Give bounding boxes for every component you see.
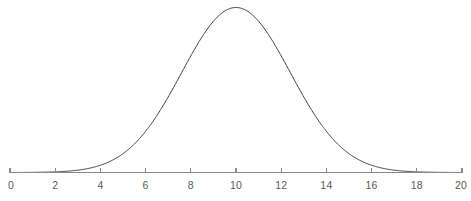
chart-canvas: 02468101214161820 <box>0 0 471 201</box>
x-tick-label-0: 0 <box>8 179 14 191</box>
x-tick-label-4: 4 <box>97 179 103 191</box>
x-tick-label-10: 10 <box>230 179 242 191</box>
x-tick-label-12: 12 <box>275 179 287 191</box>
x-tick-label-14: 14 <box>320 179 332 191</box>
x-tick-label-20: 20 <box>455 179 467 191</box>
curve-group <box>10 8 462 173</box>
bell-curve-path <box>10 8 462 173</box>
x-tick-label-2: 2 <box>52 179 58 191</box>
x-tick-label-16: 16 <box>366 179 378 191</box>
x-tick-label-8: 8 <box>188 179 194 191</box>
normal-distribution-figure: 02468101214161820 <box>0 0 471 201</box>
x-tick-label-18: 18 <box>411 179 423 191</box>
x-tick-label-6: 6 <box>143 179 149 191</box>
x-axis-tick-labels: 02468101214161820 <box>8 179 467 191</box>
